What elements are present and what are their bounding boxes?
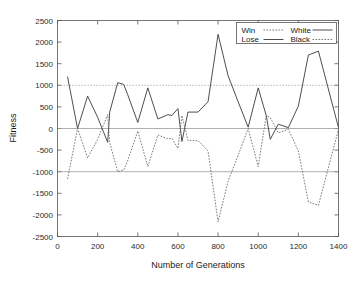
y-tick-label: -2000 — [33, 211, 54, 220]
x-tick-label: 0 — [55, 242, 60, 251]
y-axis-tick-labels: -2500-2000-1500-1000-5000500100015002000… — [33, 17, 54, 242]
data-series-group — [68, 34, 339, 221]
y-tick-label: 2000 — [35, 38, 53, 47]
y-tick-label: -1000 — [33, 168, 54, 177]
y-tick-label: 1000 — [35, 81, 53, 90]
y-tick-label: -1500 — [33, 189, 54, 198]
y-axis-title: Fitness — [8, 113, 18, 143]
y-tick-label: 500 — [40, 103, 54, 112]
x-tick-label: 1400 — [330, 242, 348, 251]
legend-label-lose: Lose — [242, 35, 260, 44]
x-tick-label: 400 — [131, 242, 145, 251]
x-axis-title: Number of Generations — [151, 260, 245, 270]
chart-figure: -2500-2000-1500-1000-5000500100015002000… — [0, 0, 361, 281]
legend-label-white: White — [291, 26, 312, 35]
x-tick-label: 1200 — [289, 242, 307, 251]
y-tick-label: 0 — [49, 125, 54, 134]
x-tick-label: 800 — [211, 242, 225, 251]
legend-label-win: Win — [242, 26, 256, 35]
x-tick-label: 1000 — [249, 242, 267, 251]
y-tick-label: -500 — [37, 146, 54, 155]
x-tick-label: 200 — [91, 242, 105, 251]
legend-label-black: Black — [291, 35, 312, 44]
x-tick-label: 600 — [171, 242, 185, 251]
chart-legend: WinWhiteLoseBlack — [237, 23, 337, 45]
y-tick-label: 1500 — [35, 60, 53, 69]
y-tick-label: -2500 — [33, 233, 54, 242]
fitness-line-chart: -2500-2000-1500-1000-5000500100015002000… — [0, 0, 361, 281]
reference-lines — [58, 85, 339, 171]
x-axis-tick-labels: 0200400600800100012001400 — [55, 242, 348, 251]
y-tick-label: 2500 — [35, 17, 53, 26]
